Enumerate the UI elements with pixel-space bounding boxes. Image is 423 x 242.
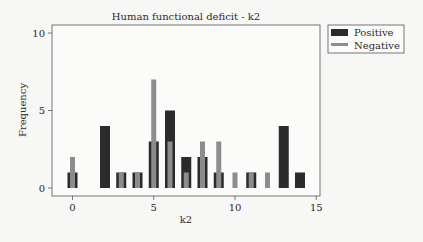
bar-negative-9 bbox=[216, 142, 221, 189]
x-axis-label: k2 bbox=[180, 214, 192, 225]
bar-negative-11 bbox=[249, 173, 254, 189]
bar-positive-13 bbox=[279, 126, 289, 188]
bar-negative-8 bbox=[200, 142, 205, 189]
y-axis-label: Frequency bbox=[17, 83, 28, 137]
bar-negative-7 bbox=[184, 173, 189, 189]
y-tick-label-5: 5 bbox=[39, 105, 45, 116]
bar-negative-4 bbox=[135, 173, 140, 189]
bar-negative-0 bbox=[70, 157, 75, 188]
histogram-chart: Human functional deficit - k2 0510 05101… bbox=[0, 0, 423, 242]
y-tick-label-0: 0 bbox=[39, 183, 45, 194]
legend-label-positive: Positive bbox=[354, 27, 394, 38]
bar-positive-14 bbox=[295, 173, 305, 189]
x-axis: 051015 bbox=[69, 196, 322, 213]
chart-title: Human functional deficit - k2 bbox=[112, 11, 260, 22]
bar-positive-2 bbox=[100, 126, 110, 188]
bar-negative-3 bbox=[119, 173, 124, 189]
y-tick-label-10: 10 bbox=[32, 28, 45, 39]
bar-negative-10 bbox=[233, 173, 238, 189]
x-tick-label-10: 10 bbox=[229, 202, 242, 213]
bar-negative-5 bbox=[151, 80, 156, 189]
legend-label-negative: Negative bbox=[354, 40, 400, 51]
bar-negative-12 bbox=[265, 173, 270, 189]
x-tick-label-15: 15 bbox=[310, 202, 323, 213]
legend-swatch-positive bbox=[331, 29, 348, 36]
y-axis: 0510 bbox=[32, 28, 52, 194]
x-tick-label-0: 0 bbox=[69, 202, 75, 213]
legend: Positive Negative bbox=[328, 25, 404, 53]
x-tick-label-5: 5 bbox=[151, 202, 157, 213]
legend-swatch-negative bbox=[331, 43, 348, 46]
bar-negative-6 bbox=[168, 142, 173, 189]
